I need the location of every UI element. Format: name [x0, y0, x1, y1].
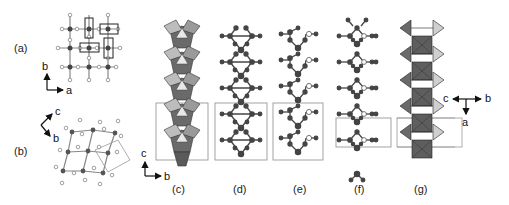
panel-label-c: (c) — [172, 183, 185, 195]
panel-label-b: (b) — [14, 145, 27, 157]
panel-c-axes — [145, 162, 161, 176]
axis-label-g-a: a — [462, 116, 468, 128]
panel-e-chain — [273, 26, 323, 160]
panel-label-e: (e) — [293, 183, 306, 195]
panel-c-polyhedra — [156, 20, 208, 166]
panel-label-f: (f) — [354, 183, 364, 195]
panel-a-axes — [47, 74, 63, 90]
panel-f-chain — [336, 18, 391, 182]
panel-b-axes — [41, 114, 52, 136]
axis-label-b-b: b — [53, 132, 59, 144]
panel-b-atoms-dark — [61, 128, 118, 176]
axis-label-b-c: c — [55, 105, 61, 117]
axis-label-a-a: a — [66, 84, 72, 96]
panel-g-axes — [453, 99, 481, 114]
crystal-structure-figure — [0, 0, 509, 205]
panel-label-a: (a) — [14, 42, 27, 54]
panel-d-chain — [215, 26, 267, 160]
panel-label-g: (g) — [414, 183, 427, 195]
panel-g-polyhedra — [397, 20, 462, 158]
axis-label-a-b: b — [42, 60, 48, 72]
axis-label-c-b: b — [164, 170, 170, 182]
axis-label-g-c: c — [443, 92, 449, 104]
panel-label-d: (d) — [233, 183, 246, 195]
panel-a-boxes — [80, 18, 118, 58]
axis-label-c-c: c — [141, 147, 147, 159]
axis-label-g-b: b — [485, 92, 491, 104]
